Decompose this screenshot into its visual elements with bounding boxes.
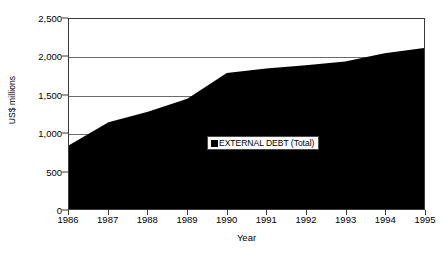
x-axis-tick-labels: 1986198719881989199019911992199319941995 (0, 214, 447, 228)
x-axis-tick-label: 1991 (256, 214, 277, 225)
x-axis-tick-label: 1987 (97, 214, 118, 225)
y-axis-tick-label: 2,000 (22, 51, 62, 62)
legend-swatch-icon (211, 140, 218, 147)
x-axis-tick-label: 1986 (57, 214, 78, 225)
y-axis-tick-label: 500 (22, 166, 62, 177)
y-axis-title: US$ millions (7, 70, 17, 130)
chart-figure: US$ millions 05001,0001,5002,0002,500 19… (0, 0, 447, 258)
x-axis-tick-label: 1992 (295, 214, 316, 225)
chart-legend: EXTERNAL DEBT (Total) (207, 136, 319, 150)
x-axis-tick-label: 1988 (137, 214, 158, 225)
plot-area (68, 18, 425, 210)
area-series-external-debt (69, 19, 424, 209)
legend-label: EXTERNAL DEBT (Total) (219, 139, 314, 148)
y-axis-tick-label: 1,500 (22, 89, 62, 100)
x-axis-tick-label: 1994 (375, 214, 396, 225)
x-axis-tick-label: 1989 (176, 214, 197, 225)
x-axis-tick-label: 1995 (414, 214, 435, 225)
x-axis-title: Year (68, 232, 425, 243)
y-axis-tick-label: 2,500 (22, 13, 62, 24)
x-axis-tick-label: 1993 (335, 214, 356, 225)
y-axis-tick-label: 1,000 (22, 128, 62, 139)
x-axis-tick-label: 1990 (216, 214, 237, 225)
